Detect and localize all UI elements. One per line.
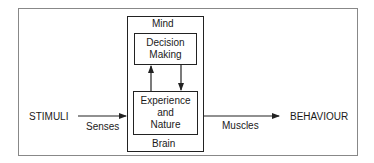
arrows-layer bbox=[0, 0, 374, 163]
